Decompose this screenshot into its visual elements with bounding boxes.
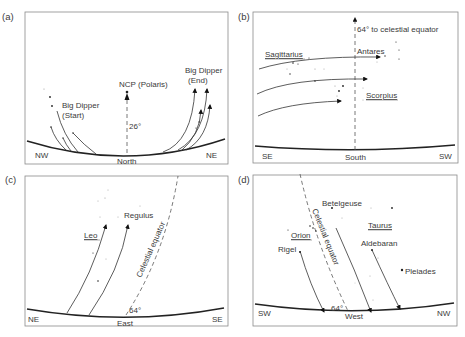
star bbox=[195, 127, 196, 128]
taurus-label: Taurus bbox=[368, 221, 392, 230]
aldebaran-star bbox=[371, 249, 373, 251]
direction-ne: NE bbox=[28, 315, 39, 324]
direction-se: SE bbox=[212, 315, 223, 324]
big-dipper-end-sublabel: (End) bbox=[188, 76, 208, 85]
star bbox=[324, 69, 325, 70]
pleiades-cluster bbox=[401, 269, 403, 271]
panel-b: (b) SE South SW 64° to celestial equator… bbox=[238, 11, 458, 163]
star bbox=[336, 95, 337, 96]
orion-label: Orion bbox=[291, 231, 311, 240]
panel-b-label: (b) bbox=[238, 11, 250, 22]
betelgeuse-star bbox=[331, 207, 333, 209]
direction-nw: NW bbox=[437, 309, 451, 318]
star bbox=[309, 225, 311, 227]
panel-d: (d) SW West NW Celestial equator 64° Bet… bbox=[238, 174, 457, 326]
equator-note-label: 64° to celestial equator bbox=[357, 25, 439, 34]
altitude-angle-label: 26° bbox=[129, 122, 141, 131]
star-trail bbox=[300, 251, 324, 312]
star bbox=[312, 227, 314, 229]
star bbox=[342, 85, 344, 87]
star bbox=[92, 252, 93, 253]
star-trail-diagram: (a) NW North NE NCP (Polaris) 26° Big Di… bbox=[0, 0, 465, 337]
star bbox=[108, 190, 109, 191]
polaris-marker-icon bbox=[125, 93, 130, 100]
star bbox=[51, 105, 53, 107]
direction-east: East bbox=[117, 319, 134, 328]
direction-north: North bbox=[117, 157, 137, 166]
aldebaran-label: Aldebaran bbox=[361, 239, 397, 248]
star bbox=[398, 58, 399, 59]
star-trail bbox=[178, 89, 207, 150]
regulus-label: Regulus bbox=[124, 211, 153, 220]
star bbox=[106, 259, 107, 260]
star-trail bbox=[163, 89, 195, 152]
rigel-label: Rigel bbox=[278, 245, 296, 254]
star-trail bbox=[372, 250, 400, 309]
star bbox=[49, 96, 51, 98]
star-trail bbox=[257, 79, 367, 94]
star bbox=[355, 283, 356, 284]
direction-west: West bbox=[345, 312, 364, 321]
panel-a: (a) NW North NE NCP (Polaris) 26° Big Di… bbox=[2, 11, 228, 166]
star bbox=[370, 276, 371, 277]
panel-c-label: (c) bbox=[5, 174, 16, 185]
big-dipper-start-sublabel: (Start) bbox=[62, 111, 85, 120]
star bbox=[287, 69, 288, 70]
direction-se: SE bbox=[262, 152, 273, 161]
star bbox=[377, 62, 378, 63]
panel-b-frame bbox=[253, 12, 458, 163]
celestial-equator-label: Celestial equator bbox=[310, 207, 341, 266]
big-dipper-start-label: Big Dipper bbox=[62, 101, 100, 110]
star bbox=[334, 85, 335, 86]
star bbox=[378, 258, 379, 259]
star bbox=[289, 73, 290, 74]
star bbox=[140, 206, 141, 207]
star bbox=[297, 63, 298, 64]
star bbox=[391, 207, 393, 209]
angle-label: 64° bbox=[331, 304, 343, 313]
star bbox=[97, 280, 99, 282]
star bbox=[287, 229, 288, 230]
celestial-equator-label: Celestial equator bbox=[135, 220, 168, 279]
direction-sw: SW bbox=[258, 309, 271, 318]
star bbox=[398, 49, 399, 50]
star bbox=[314, 80, 316, 82]
horizon-line bbox=[255, 303, 454, 311]
panel-d-label: (d) bbox=[238, 174, 250, 185]
star-trail bbox=[73, 133, 96, 154]
star bbox=[373, 300, 374, 301]
sagittarius-label: Sagittarius bbox=[265, 50, 303, 59]
star bbox=[43, 88, 44, 89]
scorpius-label: Scorpius bbox=[366, 91, 397, 100]
leo-label: Leo bbox=[84, 231, 98, 240]
star-trail bbox=[258, 101, 341, 116]
star bbox=[98, 201, 99, 202]
horizon-line bbox=[27, 139, 225, 156]
star bbox=[315, 230, 316, 231]
star bbox=[338, 90, 340, 92]
horizon-line bbox=[27, 308, 224, 317]
star bbox=[363, 100, 364, 101]
betelgeuse-label: Betelgeuse bbox=[322, 199, 363, 208]
star bbox=[198, 121, 199, 122]
star bbox=[100, 217, 101, 218]
ncp-label: NCP (Polaris) bbox=[119, 80, 168, 89]
star bbox=[314, 68, 315, 69]
star bbox=[118, 217, 119, 218]
star bbox=[104, 197, 105, 198]
star bbox=[292, 62, 294, 64]
direction-south: South bbox=[345, 153, 366, 162]
angle-label: 64° bbox=[129, 306, 141, 315]
polaris-star bbox=[126, 91, 129, 94]
panel-a-label: (a) bbox=[2, 11, 14, 22]
direction-ne: NE bbox=[206, 151, 217, 160]
big-dipper-end-label: Big Dipper bbox=[185, 66, 223, 75]
star bbox=[363, 88, 364, 89]
star bbox=[308, 57, 309, 58]
panel-c-frame bbox=[25, 176, 228, 326]
star bbox=[342, 218, 343, 219]
star-trail bbox=[63, 138, 71, 151]
star bbox=[371, 208, 372, 209]
pleiades-label: Pleiades bbox=[405, 267, 436, 276]
star bbox=[395, 41, 396, 42]
